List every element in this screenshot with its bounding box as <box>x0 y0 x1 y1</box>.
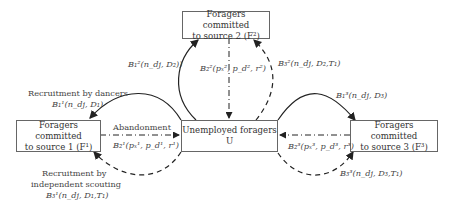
label-b2-1: B₂¹(pₓ¹, p_d¹, r¹) <box>113 140 179 150</box>
label-recruit-scouting-1: Recruitment by <box>42 168 106 178</box>
label-recruit-dancers: Recruitment by dancers <box>28 88 128 98</box>
label-b3-3: B₃³(n_dj, D₃,T₁) <box>340 168 403 178</box>
node-source2-line1: Foragers committed <box>183 9 269 31</box>
node-source3: Foragers committed to source 3 (F³) <box>350 120 438 152</box>
node-source1-line1: Foragers committed <box>17 120 100 142</box>
label-recruit-scouting-2: independent scouting <box>31 179 121 189</box>
label-abandonment: Abandonment <box>113 122 171 132</box>
node-source3-line2: to source 3 (F³) <box>351 142 437 153</box>
label-b3-2: B₃²(n_dj, D₂,T₁) <box>278 58 341 68</box>
label-b1-1: B₁¹(n_dj, D₁) <box>52 99 103 109</box>
node-source1: Foragers committed to source 1 (F¹) <box>16 120 101 152</box>
arrow-u-to-source2-scout <box>254 40 273 120</box>
arrow-u-to-source1-scout <box>94 152 181 175</box>
label-b3-1: B₃¹(n_dj, D₁,T₁) <box>46 190 109 200</box>
node-source2: Foragers committed to source 2 (F²) <box>182 11 270 39</box>
node-unemployed-line2: U <box>182 136 277 147</box>
node-unemployed-line1: Unemployed foragers <box>182 125 277 136</box>
node-source1-line2: to source 1 (F¹) <box>17 142 100 153</box>
label-b2-3: B₂³(pₓ³, p_d³, r³) <box>288 141 354 151</box>
label-b1-3: B₁³(n_dj, D₃) <box>336 90 387 100</box>
node-unemployed: Unemployed foragers U <box>181 120 278 152</box>
arrow-u-to-source2 <box>179 40 198 120</box>
label-b1-2: B₁²(n_dj, D₂)) <box>128 59 182 69</box>
label-b2-2: B₂²(pₓ², p_d², r²) <box>200 63 266 73</box>
node-source3-line1: Foragers committed <box>351 120 437 142</box>
node-source2-line2: to source 2 (F²) <box>183 31 269 42</box>
